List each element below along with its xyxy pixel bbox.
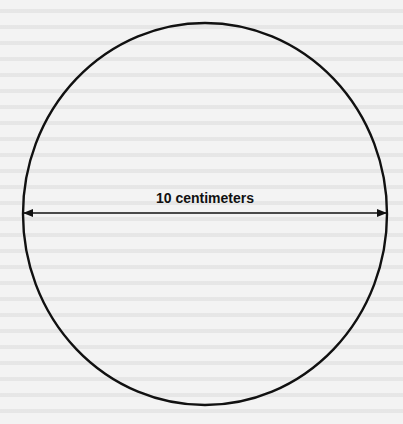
circle-diagram: 10 centimeters xyxy=(0,0,403,424)
diameter-label: 10 centimeters xyxy=(156,190,254,206)
circle-outline xyxy=(23,23,387,405)
